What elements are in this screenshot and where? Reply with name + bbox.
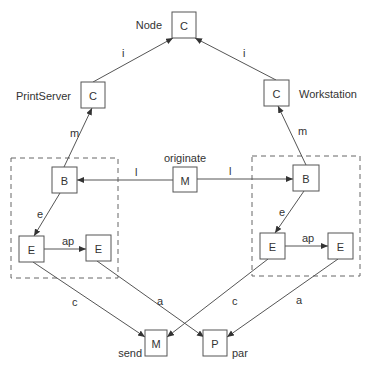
node-right-e1[interactable]: E (260, 233, 285, 259)
arrow-line (227, 259, 338, 337)
node-node-c[interactable]: CNode (136, 12, 196, 38)
nodes-layer: CNodeCPrintServerCWorkstationBMoriginate… (16, 12, 357, 359)
node-caption: originate (164, 152, 206, 164)
node-label: E (269, 241, 276, 253)
edge-label: l (135, 166, 137, 178)
edge-label: a (157, 295, 164, 307)
component-diagram: iimmlleeapapccaa CNodeCPrintServerCWorks… (0, 0, 370, 366)
node-label: M (180, 175, 189, 187)
node-label: E (337, 241, 344, 253)
node-caption: send (118, 347, 142, 359)
edge-m-to-rb: l (197, 165, 293, 179)
edge-re1-to-re2: ap (285, 232, 328, 246)
edge-le1-to-send: c (33, 262, 145, 337)
node-label: C (89, 90, 97, 102)
edge-label: c (72, 296, 78, 308)
node-left-e2[interactable]: E (86, 235, 111, 261)
edge-le2-to-par: a (97, 261, 204, 337)
arrow-line (167, 259, 268, 337)
node-par-p[interactable]: Ppar (203, 330, 248, 359)
node-originate-m[interactable]: Moriginate (164, 152, 206, 192)
edge-label: m (298, 125, 307, 137)
node-label: C (180, 20, 188, 32)
node-label: B (302, 173, 309, 185)
node-left-e1[interactable]: E (19, 236, 44, 262)
node-label: C (273, 88, 281, 100)
node-send-m[interactable]: Msend (118, 330, 167, 359)
edge-label: i (122, 47, 124, 59)
node-label: E (28, 244, 35, 256)
arrow-line (93, 38, 173, 82)
node-caption: Node (136, 19, 162, 31)
edge-m-to-lb: l (77, 166, 173, 180)
node-label: P (211, 338, 218, 350)
node-caption: PrintServer (16, 90, 71, 102)
node-label: B (61, 175, 68, 187)
edge-label: e (279, 206, 285, 218)
node-caption: Workstation (299, 88, 357, 100)
edge-label: ap (302, 232, 314, 244)
edge-label: ap (62, 235, 74, 247)
node-label: M (151, 338, 160, 350)
node-right-e2[interactable]: E (328, 233, 353, 259)
edge-re1-to-send: c (167, 259, 268, 337)
node-caption: par (232, 347, 248, 359)
edge-ws-to-node: i (195, 38, 276, 80)
arrow-line (33, 262, 145, 337)
edge-label: l (229, 165, 231, 177)
edge-label: a (296, 294, 303, 306)
edge-ps-to-node: i (93, 38, 173, 82)
arrow-line (97, 261, 204, 337)
edge-re2-to-par: a (227, 259, 338, 337)
edge-rb-to-re1: e (275, 191, 304, 233)
edge-label: i (243, 47, 245, 59)
edge-label: c (232, 295, 238, 307)
node-left-b[interactable]: B (52, 167, 77, 193)
edge-lb-to-le1: e (34, 193, 60, 236)
edge-le1-to-le2: ap (44, 235, 86, 249)
edge-label: e (37, 208, 43, 220)
node-label: E (95, 243, 102, 255)
node-right-b[interactable]: B (293, 165, 319, 191)
arrow-line (195, 38, 276, 80)
node-printserver-c[interactable]: CPrintServer (16, 82, 105, 108)
diagram-canvas: iimmlleeapapccaa CNodeCPrintServerCWorks… (0, 0, 370, 366)
edge-label: m (70, 127, 79, 139)
node-workstation-c[interactable]: CWorkstation (264, 80, 357, 106)
